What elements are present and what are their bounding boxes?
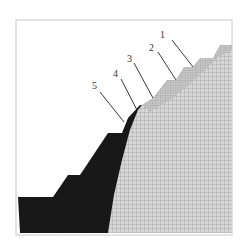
label-4: 4: [113, 68, 118, 79]
label-1: 1: [160, 29, 165, 40]
label-2: 2: [149, 42, 154, 53]
slope-mesh-figure: 1 2 3 4 5: [0, 0, 246, 249]
label-5: 5: [92, 80, 97, 91]
label-3: 3: [127, 53, 132, 64]
